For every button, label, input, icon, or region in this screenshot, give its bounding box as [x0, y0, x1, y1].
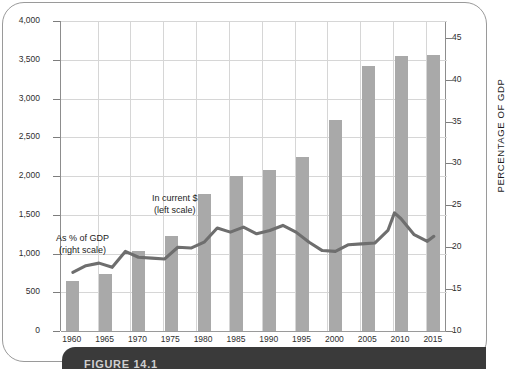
y-tick-label-left: 2,500: [0, 131, 40, 141]
y-tick-mark-left: [53, 215, 60, 216]
gridline-y: [61, 331, 447, 332]
y-tick-label-right: 40: [452, 74, 492, 84]
y-tick-label-left: 2,000: [0, 170, 40, 180]
y-axis-right-title: PERCENTAGE OF GDP: [495, 61, 506, 211]
y-tick-mark-left: [53, 292, 60, 293]
y-tick-label-right: 35: [452, 116, 492, 126]
y-tick-mark-left: [53, 99, 60, 100]
annotation-pct-of-gdp: As % of GDP (right scale): [56, 232, 109, 256]
line-series: [61, 21, 447, 331]
annotation-pct-line1: As % of GDP: [56, 232, 109, 244]
y-tick-label-left: 0: [0, 325, 40, 335]
y-tick-mark-left: [53, 137, 60, 138]
y-tick-mark-right: [446, 38, 453, 39]
plot-area: [60, 21, 446, 331]
y-tick-mark-left: [53, 21, 60, 22]
y-tick-mark-right: [446, 289, 453, 290]
y-tick-label-right: 30: [452, 157, 492, 167]
y-tick-label-right: 20: [452, 241, 492, 251]
y-tick-label-right: 25: [452, 199, 492, 209]
y-tick-label-right: 45: [452, 32, 492, 42]
y-tick-mark-left: [53, 60, 60, 61]
y-tick-label-left: 4,000: [0, 15, 40, 25]
y-tick-label-left: 500: [0, 286, 40, 296]
annotation-current-dollars: In current $ (left scale): [152, 192, 198, 216]
figure-caption-band: FIGURE 14.1: [62, 347, 486, 369]
annotation-cur-line1: In current $: [152, 192, 198, 204]
y-tick-label-left: 1,000: [0, 248, 40, 258]
annotation-pct-line2: (right scale): [56, 244, 109, 256]
y-tick-mark-left: [53, 331, 60, 332]
y-tick-label-left: 1,500: [0, 209, 40, 219]
y-tick-label-left: 3,000: [0, 93, 40, 103]
figure-caption: FIGURE 14.1: [84, 358, 158, 369]
y-tick-label-right: 10: [452, 325, 492, 335]
y-tick-mark-right: [446, 205, 453, 206]
y-tick-mark-right: [446, 247, 453, 248]
y-tick-mark-right: [446, 80, 453, 81]
annotation-cur-line2: (left scale): [152, 204, 198, 216]
y-tick-label-left: 3,500: [0, 54, 40, 64]
y-tick-label-right: 15: [452, 283, 492, 293]
x-tick-label: 2015: [413, 334, 453, 344]
y-tick-mark-right: [446, 331, 453, 332]
y-tick-mark-right: [446, 122, 453, 123]
pct-of-gdp-line: [73, 213, 434, 272]
y-tick-mark-right: [446, 163, 453, 164]
y-tick-mark-left: [53, 176, 60, 177]
